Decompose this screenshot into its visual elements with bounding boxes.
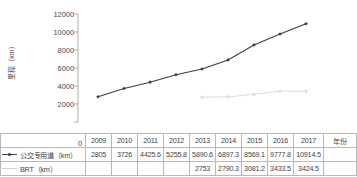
year-cell-2011: 2011 <box>138 134 164 148</box>
spacer-cell-1 <box>324 148 357 162</box>
legend-marker-brt-icon <box>2 165 17 172</box>
brt-cell-2010 <box>112 162 138 176</box>
year-cell-2013: 2013 <box>190 134 216 148</box>
data-point-s1-3 <box>174 73 178 77</box>
data-table: 0 2009 2010 2011 2012 2013 2014 2015 201… <box>0 133 357 176</box>
bus-lane-cell-2014: 6897.3 <box>216 148 242 162</box>
legend-item-bus-lane[interactable]: 公交专用道（km） <box>1 148 86 162</box>
table-row-brt: BRT（km） 2753 2790.3 3081.2 3433.5 3424.5 <box>1 162 357 176</box>
data-point-s1-0 <box>96 95 100 99</box>
year-cell-2014: 2014 <box>216 134 242 148</box>
y-axis-ticks <box>74 14 78 122</box>
bus-lane-cell-2009: 2805 <box>86 148 112 162</box>
year-cell-2009: 2009 <box>86 134 112 148</box>
data-point-s1-1 <box>122 87 126 91</box>
year-cell-2012: 2012 <box>164 134 190 148</box>
brt-cell-2012 <box>164 162 190 176</box>
year-cell-2010: 2010 <box>112 134 138 148</box>
y-tick-0: 0 <box>78 139 82 148</box>
chart-canvas <box>0 0 356 135</box>
legend-item-brt[interactable]: BRT（km） <box>1 162 86 176</box>
data-point-s1-7 <box>278 32 282 36</box>
data-point-s2-4 <box>305 90 308 93</box>
data-point-s1-4 <box>200 67 204 71</box>
bus-lane-cell-2017: 10914.5 <box>294 148 324 162</box>
brt-cell-2017: 3424.5 <box>294 162 324 176</box>
brt-cell-2016: 3433.5 <box>268 162 294 176</box>
plot-region: 里程（km） 12000 10000 8000 6000 4000 2000 <box>0 0 356 135</box>
data-point-s2-1 <box>227 96 230 99</box>
series-layer <box>96 22 308 99</box>
bus-lane-cell-2012: 5255.8 <box>164 148 190 162</box>
year-cell-2016: 2016 <box>268 134 294 148</box>
table-row-bus-lane: 公交专用道（km） 2805 3726 4425.6 5255.8 5890.6… <box>1 148 357 162</box>
series-line-1 <box>98 24 306 97</box>
table-corner: 0 <box>1 134 86 148</box>
data-table-region: 0 2009 2010 2011 2012 2013 2014 2015 201… <box>0 133 356 177</box>
legend-marker-bus-lane-icon <box>2 151 17 158</box>
bus-lane-cell-2015: 8569.1 <box>242 148 268 162</box>
data-point-s1-8 <box>304 22 308 26</box>
legend-label-brt: BRT（km） <box>20 164 56 174</box>
data-point-s2-3 <box>279 90 282 93</box>
legend-label-bus-lane: 公交专用道（km） <box>20 150 77 160</box>
data-point-s2-0 <box>201 96 204 99</box>
year-cell-2015: 2015 <box>242 134 268 148</box>
data-point-s2-2 <box>253 93 256 96</box>
x-axis-title: 年份 <box>324 134 357 148</box>
brt-cell-2013: 2753 <box>190 162 216 176</box>
brt-cell-2015: 3081.2 <box>242 162 268 176</box>
data-point-s1-2 <box>148 80 152 84</box>
brt-cell-2014: 2790.3 <box>216 162 242 176</box>
bus-lane-cell-2011: 4425.6 <box>138 148 164 162</box>
spacer-cell-2 <box>324 162 357 176</box>
bus-lane-cell-2016: 9777.8 <box>268 148 294 162</box>
year-cell-2017: 2017 <box>294 134 324 148</box>
bus-lane-cell-2010: 3726 <box>112 148 138 162</box>
table-row-years: 0 2009 2010 2011 2012 2013 2014 2015 201… <box>1 134 357 148</box>
bus-lane-cell-2013: 5890.6 <box>190 148 216 162</box>
brt-cell-2011 <box>138 162 164 176</box>
brt-cell-2009 <box>86 162 112 176</box>
